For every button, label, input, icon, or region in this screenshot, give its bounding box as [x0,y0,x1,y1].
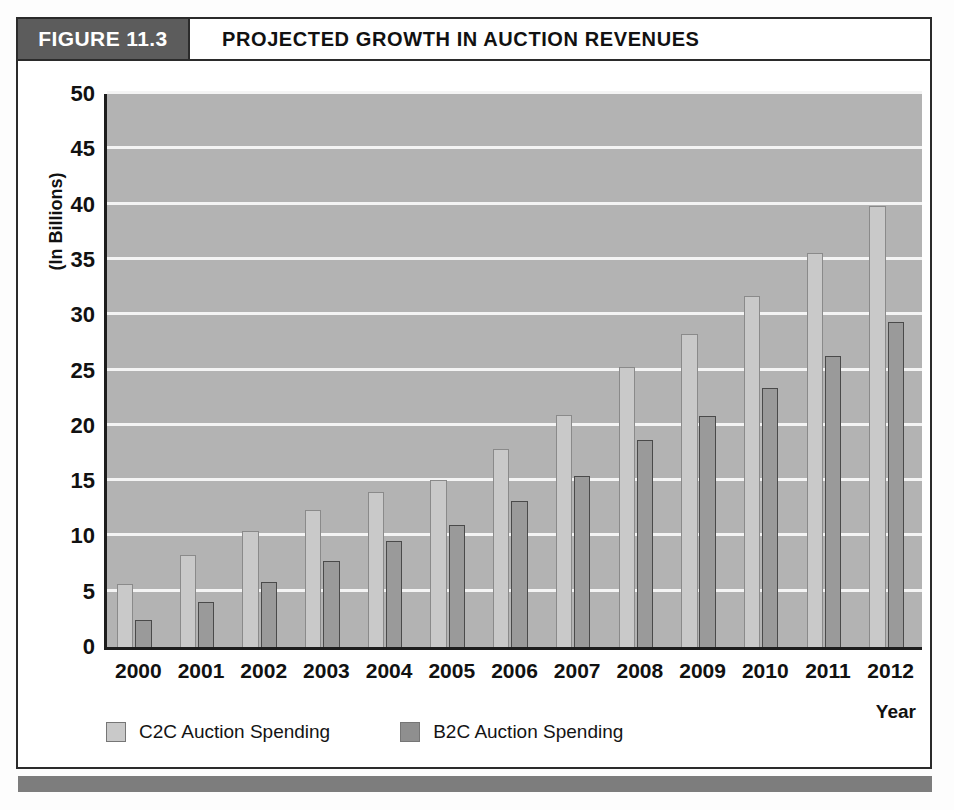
y-axis-tick-label: 45 [21,136,95,162]
bar-b2c [323,561,339,647]
bar-group [671,94,734,647]
bottom-accent-bar [18,776,932,792]
x-axis-tick-label: 2006 [483,659,546,683]
bar-b2c [762,388,778,647]
y-axis-tick-label: 5 [21,579,95,605]
y-axis-tick-label: 50 [21,81,95,107]
bar-group [609,94,672,647]
x-axis-tick-label: 2000 [107,659,170,683]
bar-c2c [556,415,572,647]
bar-c2c [681,334,697,647]
legend-swatch-c2c [106,722,126,742]
bar-c2c [117,584,133,647]
bar-group [232,94,295,647]
bar-b2c [574,476,590,647]
bar-b2c [888,322,904,647]
bar-b2c [261,582,277,647]
chart-body: (In Billions) 05101520253035404550 20002… [18,61,930,767]
legend-label: C2C Auction Spending [139,721,330,743]
x-axis-tick-label: 2003 [295,659,358,683]
bar-c2c [619,367,635,647]
x-axis-tick-label: 2001 [170,659,233,683]
x-axis-tick-label: 2010 [734,659,797,683]
x-axis-title: Year [876,701,916,723]
bar-group [420,94,483,647]
bar-c2c [807,253,823,647]
bar-b2c [135,620,151,647]
bar-group [859,94,922,647]
bar-b2c [699,416,715,647]
x-axis-tick-label: 2005 [420,659,483,683]
bar-c2c [869,206,885,647]
bar-c2c [430,480,446,647]
figure-number-tag: FIGURE 11.3 [18,19,190,59]
bar-group [483,94,546,647]
bar-b2c [825,356,841,647]
legend-label: B2C Auction Spending [433,721,623,743]
chart-legend: C2C Auction SpendingB2C Auction Spending [106,721,623,743]
bar-b2c [511,501,527,647]
y-axis-tick-label: 0 [21,634,95,660]
figure-title: PROJECTED GROWTH IN AUCTION REVENUES [190,19,930,59]
x-axis-tick-label: 2009 [671,659,734,683]
legend-item: C2C Auction Spending [106,721,330,743]
bar-group [546,94,609,647]
x-axis-tick-label: 2007 [546,659,609,683]
x-axis-tick-label: 2002 [232,659,295,683]
bar-group [734,94,797,647]
y-axis-tick-label: 25 [21,358,95,384]
figure-titlebar: FIGURE 11.3 PROJECTED GROWTH IN AUCTION … [16,17,932,61]
figure-container: FIGURE 11.3 PROJECTED GROWTH IN AUCTION … [0,0,954,810]
bar-series-container [107,94,922,647]
bar-c2c [368,492,384,647]
bar-c2c [305,510,321,647]
bar-b2c [198,602,214,647]
y-axis-tick-label: 15 [21,468,95,494]
bar-b2c [386,541,402,647]
y-axis-tick-label: 20 [21,413,95,439]
x-axis-tick-label: 2008 [609,659,672,683]
bar-group [797,94,860,647]
bar-c2c [493,449,509,647]
bar-c2c [242,531,258,647]
bar-c2c [744,296,760,647]
plot-area: 05101520253035404550 2000200120022003200… [104,94,922,650]
bar-b2c [449,525,465,647]
y-axis-tick-label: 30 [21,302,95,328]
bar-group [358,94,421,647]
y-axis-tick-label: 10 [21,523,95,549]
x-axis-tick-label: 2012 [859,659,922,683]
bar-c2c [180,555,196,647]
legend-swatch-b2c [400,722,420,742]
x-axis-tick-label: 2004 [358,659,421,683]
x-axis-tick-label: 2011 [797,659,860,683]
bar-group [170,94,233,647]
y-axis-tick-label: 35 [21,247,95,273]
bar-group [295,94,358,647]
y-axis-tick-label: 40 [21,192,95,218]
bar-group [107,94,170,647]
legend-item: B2C Auction Spending [400,721,623,743]
bar-b2c [637,440,653,647]
